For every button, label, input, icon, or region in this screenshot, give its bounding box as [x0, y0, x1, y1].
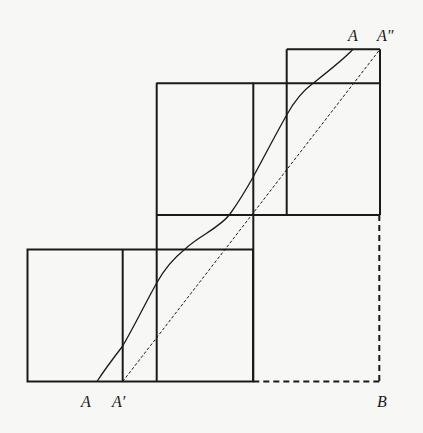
label-top-a: A	[347, 27, 358, 44]
label-top-a-double-prime: A″	[376, 27, 394, 44]
staircase-squares-diagram: A A′ B A A″	[0, 0, 423, 433]
lower-left-square	[28, 250, 254, 382]
label-bottom-a: A	[80, 393, 91, 410]
label-bottom-a-prime: A′	[111, 393, 126, 410]
label-corner-b: B	[377, 393, 387, 410]
